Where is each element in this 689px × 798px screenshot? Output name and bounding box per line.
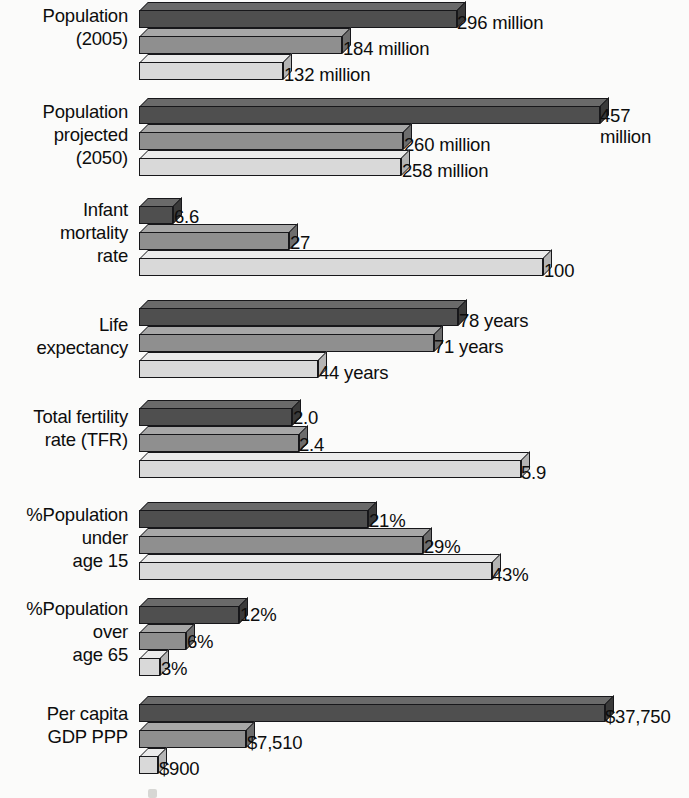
- bar-front-face: [139, 510, 368, 528]
- value-label: 296 million: [457, 12, 543, 33]
- bar-front-face: [139, 232, 289, 250]
- value-label: 12%: [240, 604, 276, 625]
- value-label: 43%: [492, 564, 528, 585]
- bar-series-1: [130, 98, 600, 124]
- bar-front-face: [139, 632, 186, 650]
- bar-series-3: [130, 748, 158, 774]
- bar-front-face: [139, 36, 342, 54]
- demographic-comparison-bar-chart: Population (2005)296 million184 million1…: [0, 0, 689, 798]
- bar-front-face: [139, 606, 239, 624]
- bar-series-2: [130, 426, 299, 452]
- category-label: Infant mortality rate: [0, 198, 128, 267]
- bar-front-face: [139, 434, 299, 452]
- value-label: 71 years: [434, 336, 503, 357]
- bar-series-1: [130, 502, 368, 528]
- category-label: Population (2005): [0, 4, 128, 50]
- bar-series-2: [130, 224, 289, 250]
- value-label: 5.9: [521, 462, 546, 483]
- bar-series-1: [130, 300, 458, 326]
- bar-series-3: [130, 452, 521, 478]
- bar-series-2: [130, 124, 403, 150]
- bar-series-2: [130, 326, 434, 352]
- bar-front-face: [139, 536, 423, 554]
- bar-front-face: [139, 658, 160, 676]
- bar-series-3: [130, 650, 160, 676]
- value-label: $900: [159, 758, 199, 779]
- bar-front-face: [139, 408, 292, 426]
- category-label: Life expectancy: [0, 313, 128, 359]
- bar-front-face: [139, 460, 521, 478]
- bar-front-face: [139, 562, 492, 580]
- bar-series-1: [130, 696, 605, 722]
- bar-series-3: [130, 150, 401, 176]
- value-label: 3%: [161, 658, 187, 679]
- value-label: 184 million: [343, 38, 429, 59]
- category-label: %Population over age 65: [0, 597, 128, 666]
- bar-series-2: [130, 28, 342, 54]
- value-label: 100: [544, 260, 574, 281]
- bar-front-face: [139, 730, 246, 748]
- value-label: $7,510: [247, 732, 302, 753]
- value-label: 6%: [187, 631, 213, 652]
- bar-front-face: [139, 158, 401, 176]
- value-label: $37,750: [605, 706, 670, 727]
- category-label: Population projected (2050): [0, 100, 128, 169]
- bar-front-face: [139, 704, 605, 722]
- bar-series-1: [130, 598, 239, 624]
- bar-series-2: [130, 722, 246, 748]
- bar-front-face: [139, 308, 458, 326]
- value-label: 78 years: [459, 310, 528, 331]
- value-label: 44 years: [319, 362, 388, 383]
- category-label: Per capita GDP PPP: [0, 702, 128, 748]
- value-label: 260 million: [404, 134, 490, 155]
- bar-series-3: [130, 554, 492, 580]
- bar-front-face: [139, 132, 403, 150]
- scan-artifact: [148, 789, 157, 798]
- bar-series-1: [130, 2, 457, 28]
- bar-series-3: [130, 352, 318, 378]
- bar-front-face: [139, 360, 318, 378]
- value-label: 457 million: [600, 105, 651, 147]
- bar-front-face: [139, 258, 543, 276]
- bar-series-2: [130, 624, 186, 650]
- bar-series-1: [130, 198, 173, 224]
- bar-front-face: [139, 62, 283, 80]
- bar-front-face: [139, 334, 434, 352]
- bar-series-1: [130, 400, 292, 426]
- value-label: 2.0: [293, 407, 318, 428]
- bar-front-face: [139, 756, 158, 774]
- bar-series-2: [130, 528, 423, 554]
- bar-front-face: [139, 10, 457, 28]
- bar-series-3: [130, 54, 283, 80]
- bar-front-face: [139, 106, 600, 124]
- bar-series-3: [130, 250, 543, 276]
- bar-front-face: [139, 206, 173, 224]
- category-label: Total fertility rate (TFR): [0, 405, 128, 451]
- category-label: %Population under age 15: [0, 503, 128, 572]
- value-label: 258 million: [402, 160, 488, 181]
- value-label: 132 million: [284, 64, 370, 85]
